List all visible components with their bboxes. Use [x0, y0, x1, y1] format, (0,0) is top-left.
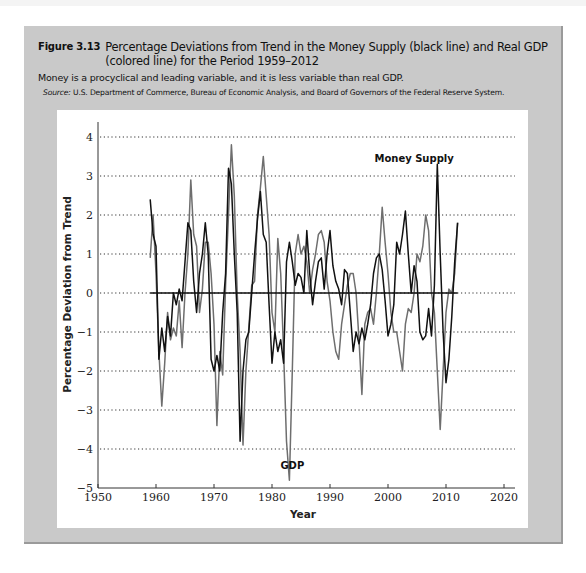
money-supply-line: [150, 164, 457, 441]
source-label: Source:: [43, 88, 71, 97]
y-tick-label: 2: [86, 209, 93, 222]
x-tick-label: 1950: [84, 491, 112, 504]
x-tick-label: 2020: [490, 491, 518, 504]
x-tick-label: 2010: [432, 491, 460, 504]
figure-subtitle: Money is a procyclical and leading varia…: [38, 72, 558, 83]
y-axis-title: Percentage Deviation from Trend: [61, 196, 73, 392]
x-tick-label: 1970: [200, 491, 228, 504]
y-tick-label: 4: [86, 131, 93, 144]
money-supply-label: Money Supply: [374, 153, 454, 164]
source-text: U.S. Department of Commerce, Bureau of E…: [73, 88, 504, 97]
x-axis-title: Year: [289, 508, 317, 520]
y-tick-label: −3: [77, 404, 93, 417]
y-tick-label: 1: [86, 248, 93, 261]
y-tick-label: −1: [77, 326, 93, 339]
line-chart: 43210−1−2−3−4−51950196019701980199020002…: [57, 110, 528, 528]
x-tick-label: 1990: [316, 491, 344, 504]
y-tick-label: 0: [86, 287, 93, 300]
figure-panel: Figure 3.13 Percentage Deviations from T…: [24, 26, 563, 544]
figure-number: Figure 3.13: [38, 40, 100, 68]
figure-title: Figure 3.13 Percentage Deviations from T…: [38, 40, 558, 68]
y-tick-label: −2: [77, 365, 93, 378]
page-header-strip: [0, 0, 586, 6]
gdp-label: GDP: [280, 460, 304, 471]
x-tick-label: 2000: [374, 491, 402, 504]
chart-area: 43210−1−2−3−4−51950196019701980199020002…: [57, 110, 528, 528]
x-tick-label: 1960: [142, 491, 170, 504]
figure-source: Source: U.S. Department of Commerce, Bur…: [43, 88, 558, 97]
data-series: [150, 145, 457, 480]
chart-labels: 43210−1−2−3−4−51950196019701980199020002…: [61, 131, 518, 520]
figure-caption: Figure 3.13 Percentage Deviations from T…: [38, 40, 558, 97]
x-tick-label: 1980: [258, 491, 286, 504]
y-tick-label: −4: [77, 443, 93, 456]
figure-title-text: Percentage Deviations from Trend in the …: [105, 40, 558, 68]
y-tick-label: 3: [86, 170, 93, 183]
